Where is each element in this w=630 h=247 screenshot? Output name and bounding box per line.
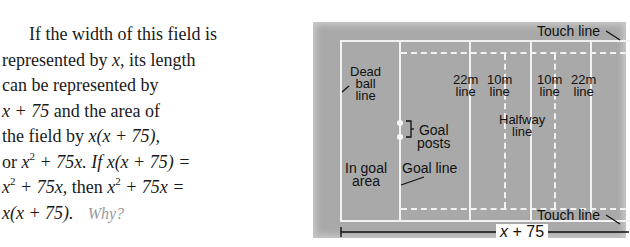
para-text: represented by: [2, 50, 112, 70]
exponent: 2: [10, 175, 16, 187]
label-part: posts: [417, 137, 450, 150]
para-line-7: x2 + 75x, then x2 + 75x =: [2, 175, 264, 201]
expr-product: x(x + 75).: [2, 203, 74, 223]
touch-line-top-leader: [606, 30, 626, 42]
para-line-3: can be represented by: [2, 73, 264, 99]
label-touch-line-bottom: Touch line: [537, 208, 600, 222]
label-part: line: [453, 86, 478, 98]
touch-line-top: [340, 40, 630, 42]
para-text: then: [72, 177, 108, 197]
para-text: the field by: [2, 126, 88, 146]
exponent: 2: [30, 150, 36, 162]
expr-sum: + 75x =: [121, 177, 185, 197]
dimension-label: x + 75: [496, 224, 548, 240]
expr-sum: + 75x. If: [35, 152, 107, 172]
exponent: 2: [115, 175, 121, 187]
goal-line: [399, 40, 401, 222]
line-22m-right: [590, 40, 592, 222]
label-dead-ball-line: Dead ball line: [350, 66, 381, 102]
label-10m-left: 10m line: [487, 74, 512, 98]
label-in-goal-area: In goal area: [345, 162, 387, 188]
label-part: area: [345, 175, 387, 188]
problem-paragraph: If the width of this field is represente…: [2, 22, 264, 226]
para-text: or: [2, 152, 22, 172]
label-goal-posts: Goal posts: [417, 124, 450, 150]
goal-line-leader: [400, 175, 430, 187]
dimension-arrow: [340, 226, 630, 238]
para-line-1: If the width of this field is: [2, 22, 264, 48]
para-line-8: x(x + 75).Why?: [2, 201, 264, 227]
label-goal-line: Goal line: [402, 162, 457, 175]
expr-area: x(x + 75),: [88, 126, 160, 146]
var-x: x: [112, 50, 120, 70]
goal-post: [397, 120, 403, 126]
expr-sum: + 75x,: [16, 177, 72, 197]
touch-dashed-top: [401, 52, 626, 54]
para-line-5: the field by x(x + 75),: [2, 124, 264, 150]
var-x: x: [107, 177, 115, 197]
rugby-field-diagram: Touch line Touch line Dead ball line 22m…: [313, 22, 626, 240]
label-touch-line-top: Touch line: [537, 24, 600, 38]
label-part: line: [537, 86, 562, 98]
touch-line-bottom-leader: [606, 214, 626, 226]
label-22m-right: 22m line: [571, 74, 596, 98]
label-part: line: [350, 90, 381, 102]
para-line-4: x + 75 and the area of: [2, 99, 264, 125]
dead-ball-leader: [342, 84, 352, 94]
goal-post: [397, 134, 403, 140]
dead-ball-line-left: [340, 40, 342, 222]
para-line-6: or x2 + 75x. If x(x + 75) =: [2, 150, 264, 176]
dim-rest: + 75: [508, 223, 544, 240]
para-line-2: represented by x, its length: [2, 48, 264, 74]
expr-length: x + 75: [2, 101, 49, 121]
expr-product: x(x + 75) =: [107, 152, 191, 172]
var-x: x: [2, 177, 10, 197]
label-halfway-line: Halfway line: [499, 114, 545, 138]
why-prompt: Why?: [88, 205, 124, 222]
label-part: line: [571, 86, 596, 98]
goal-posts-bracket: [405, 120, 415, 140]
label-part: line: [487, 86, 512, 98]
label-part: line: [499, 126, 545, 138]
label-22m-left: 22m line: [453, 74, 478, 98]
label-10m-right: 10m line: [537, 74, 562, 98]
var-x: x: [22, 152, 30, 172]
dim-var: x: [500, 223, 508, 240]
para-text: , its length: [120, 50, 196, 70]
line-22m-left: [469, 40, 471, 222]
para-text: and the area of: [54, 101, 160, 121]
